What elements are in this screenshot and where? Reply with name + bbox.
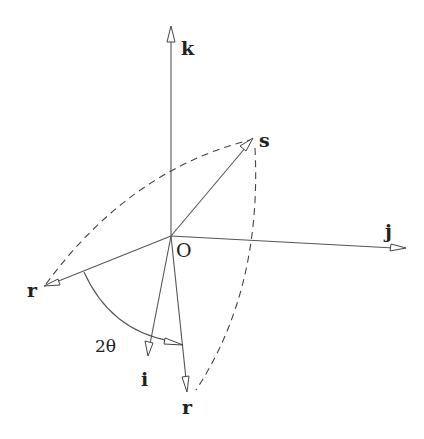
label-j: j — [383, 220, 392, 242]
label-k: k — [181, 37, 195, 59]
j-arrowhead-icon — [390, 244, 406, 251]
label-angle: 2θ — [95, 336, 116, 356]
dashed-arc-s-to-r — [196, 148, 256, 390]
label-origin: O — [176, 239, 192, 261]
label-r-start: r — [27, 279, 38, 301]
s-arrowhead-icon — [240, 138, 253, 151]
k-arrowhead-icon — [167, 26, 175, 42]
r-start-arrowhead-icon — [44, 279, 60, 286]
k-axis — [167, 26, 175, 236]
label-s: s — [259, 129, 270, 151]
s-vector — [171, 138, 253, 236]
rotation-diagram: k s j O r 2θ i r — [0, 0, 424, 439]
angle-arrowhead-icon — [164, 338, 183, 345]
j-axis — [171, 236, 406, 251]
i-arrowhead-icon — [145, 341, 153, 356]
label-i: i — [141, 368, 148, 390]
r-start-vector — [44, 236, 171, 286]
dashed-arc-r-to-s — [46, 140, 250, 284]
label-r-end: r — [182, 396, 193, 418]
r-end-arrowhead-icon — [182, 376, 189, 392]
